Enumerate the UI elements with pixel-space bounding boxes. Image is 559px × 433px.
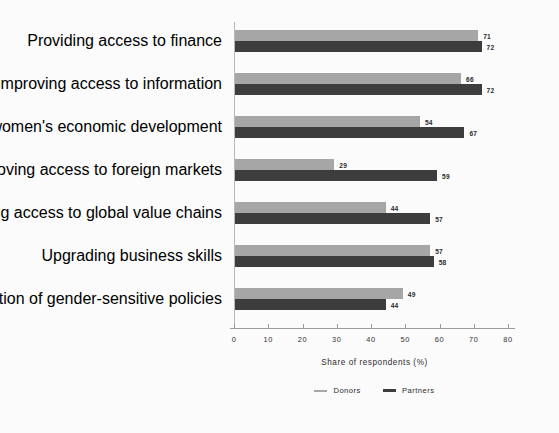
- bar-value-label: 72: [487, 43, 495, 50]
- legend-swatch-icon: [314, 390, 327, 392]
- bar-value-label: 54: [425, 118, 433, 125]
- legend-swatch-icon: [383, 389, 396, 392]
- bar-donors-1: [235, 73, 461, 84]
- legend-label: Partners: [402, 386, 435, 395]
- bar-partners-2: [235, 127, 464, 138]
- bar-value-label: 44: [391, 301, 399, 308]
- bar-value-label: 72: [487, 86, 495, 93]
- bar-value-label: 49: [408, 290, 416, 297]
- category-label: Improving access to foreign markets: [0, 161, 222, 179]
- bar-value-label: 57: [435, 247, 443, 254]
- bar-value-label: 71: [483, 32, 491, 39]
- x-axis-tick: [268, 324, 269, 329]
- legend-item-donors[interactable]: Donors: [314, 386, 360, 395]
- bar-donors-2: [235, 116, 420, 127]
- bar-partners-6: [235, 299, 386, 310]
- x-axis-tick: [371, 324, 372, 329]
- bar-value-label: 66: [466, 75, 474, 82]
- bar-value-label: 67: [469, 129, 477, 136]
- bar-donors-0: [235, 30, 478, 41]
- bar-partners-4: [235, 213, 430, 224]
- category-label: Supporting elaboration of gender-sensiti…: [0, 290, 222, 308]
- category-label: Providing access to finance: [27, 32, 222, 50]
- x-axis-tick-label: 30: [332, 335, 341, 344]
- bar-partners-0: [235, 41, 482, 52]
- x-axis-tick: [440, 324, 441, 329]
- x-axis-tick: [405, 324, 406, 329]
- x-axis-tick-label: 80: [503, 335, 512, 344]
- x-axis-tick: [508, 324, 509, 329]
- bar-partners-1: [235, 84, 482, 95]
- x-axis-tick-label: 70: [469, 335, 478, 344]
- x-axis-title: Share of respondents (%): [234, 358, 515, 367]
- category-label: Improving access to information: [0, 75, 222, 93]
- category-label: Upgrading business skills: [41, 247, 222, 265]
- x-axis-tick: [234, 324, 235, 329]
- bar-donors-6: [235, 288, 403, 299]
- x-axis-tick-label: 10: [264, 335, 273, 344]
- legend-item-partners[interactable]: Partners: [383, 386, 435, 395]
- bar-partners-3: [235, 170, 437, 181]
- bar-value-label: 59: [442, 172, 450, 179]
- category-label: Improving access to global value chains: [0, 204, 222, 222]
- bar-partners-5: [235, 256, 434, 267]
- legend-label: Donors: [333, 386, 360, 395]
- bar-donors-4: [235, 202, 386, 213]
- bar-donors-3: [235, 159, 334, 170]
- x-axis-tick-label: 50: [401, 335, 410, 344]
- x-axis-tick: [474, 324, 475, 329]
- x-axis-tick-label: 60: [435, 335, 444, 344]
- category-labels: Providing access to financeImproving acc…: [0, 0, 228, 433]
- bar-value-label: 58: [439, 258, 447, 265]
- bar-value-label: 29: [339, 161, 347, 168]
- category-label: Supporting women's economic development: [0, 118, 222, 136]
- bar-chart: Providing access to financeImproving acc…: [0, 0, 559, 433]
- x-axis-tick-label: 0: [232, 335, 237, 344]
- x-axis-tick: [303, 324, 304, 329]
- bar-value-label: 57: [435, 215, 443, 222]
- x-axis-tick-label: 20: [298, 335, 307, 344]
- bar-donors-5: [235, 245, 430, 256]
- x-axis-line: [230, 328, 515, 329]
- x-axis-tick: [337, 324, 338, 329]
- chart-legend: DonorsPartners: [234, 386, 515, 395]
- x-axis-tick-label: 40: [366, 335, 375, 344]
- plot-area: 7172667254672959445757584944: [234, 22, 508, 328]
- bar-value-label: 44: [391, 204, 399, 211]
